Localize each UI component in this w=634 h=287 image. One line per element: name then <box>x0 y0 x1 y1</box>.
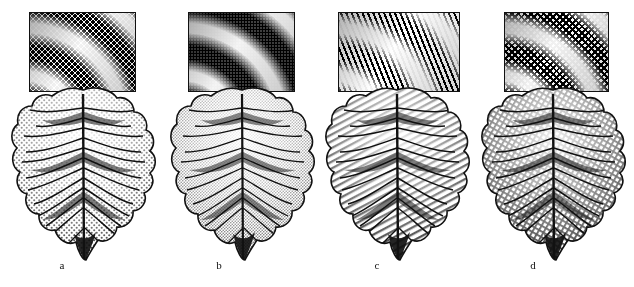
panel-label-d: d <box>523 260 543 271</box>
leaf-icon <box>478 84 628 264</box>
leaf-illustration-d <box>478 84 628 264</box>
leaf-icon <box>167 84 317 264</box>
panel-label-b: b <box>209 260 229 271</box>
shading-vignette <box>30 13 135 91</box>
texture-inset-c <box>338 12 460 92</box>
leaf-illustration-c <box>322 84 472 264</box>
texture-inset-a <box>29 12 136 92</box>
leaf-illustration-a <box>8 84 158 264</box>
figure-canvas: a <box>0 0 634 287</box>
texture-inset-b <box>188 12 295 92</box>
texture-inset-d <box>504 12 609 92</box>
leaf-icon <box>322 84 472 264</box>
panel-label-c: c <box>367 260 387 271</box>
shading-vignette <box>339 13 459 91</box>
leaf-icon <box>8 84 158 264</box>
panel-label-a: a <box>52 260 72 271</box>
shading-vignette <box>189 13 294 91</box>
shading-vignette <box>505 13 608 91</box>
leaf-illustration-b <box>167 84 317 264</box>
